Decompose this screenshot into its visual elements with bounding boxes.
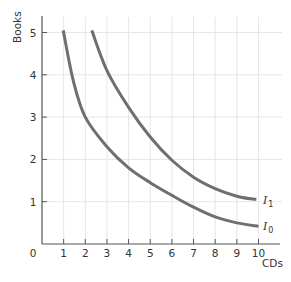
y-tick-label: 2 [30, 153, 37, 165]
curves [63, 30, 258, 226]
curve-label-I0: I0 [262, 220, 273, 235]
curve-labels: I0I1 [262, 194, 273, 236]
y-tick-label: 4 [30, 69, 37, 81]
x-tick-label: 4 [125, 247, 132, 259]
x-axis-title: CDs [262, 257, 283, 269]
x-tick-label: 7 [190, 247, 197, 259]
x-tick-label: 5 [147, 247, 154, 259]
x-tick-label: 2 [82, 247, 89, 259]
x-tick-label: 3 [104, 247, 111, 259]
axes [42, 16, 280, 244]
curve-I0 [63, 30, 258, 226]
y-tick-label: 1 [30, 196, 37, 208]
x-tick-label: 8 [212, 247, 219, 259]
x-tick-label: 0 [30, 247, 37, 259]
y-tick-label: 3 [30, 111, 37, 123]
x-tick-label: 9 [234, 247, 241, 259]
y-tick-label: 5 [30, 27, 37, 39]
x-tick-label: 1 [60, 247, 67, 259]
curve-I1 [92, 30, 257, 199]
y-axis-title: Books [11, 11, 23, 43]
curve-label-I1: I1 [262, 194, 273, 209]
x-tick-label: 6 [169, 247, 176, 259]
indifference-curve-chart: 01234567891012345 Books CDs I0I1 [0, 0, 291, 282]
tick-labels: 01234567891012345 [30, 27, 266, 260]
gridlines [42, 17, 282, 244]
